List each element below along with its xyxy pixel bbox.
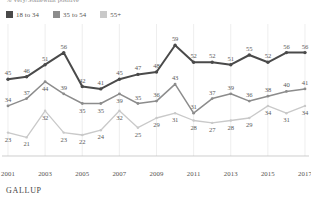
- data-label: 37: [209, 89, 216, 96]
- data-point: [192, 61, 195, 64]
- data-point: [99, 87, 102, 90]
- data-label: 41: [302, 79, 308, 86]
- data-label: 23: [60, 136, 67, 143]
- legend-swatch-55-plus: [100, 11, 107, 18]
- plot-area: 4546515642414547485952525155525656343744…: [0, 24, 311, 172]
- data-label: 38: [265, 86, 272, 93]
- data-label: 31: [172, 116, 178, 123]
- legend-swatch-18-to-34: [6, 11, 13, 18]
- data-point: [285, 112, 287, 114]
- data-label: 34: [265, 109, 272, 116]
- x-axis-tick-2003: 2003: [38, 170, 52, 177]
- data-label: 56: [283, 43, 290, 50]
- data-label: 45: [5, 69, 12, 76]
- data-label: 43: [172, 74, 179, 81]
- data-point: [285, 51, 288, 54]
- x-axis-tick-2005: 2005: [75, 170, 89, 177]
- data-label: 35: [79, 107, 86, 114]
- plot-svg: 4546515642414547485952525155525656343744…: [0, 24, 311, 172]
- x-axis-tick-2009: 2009: [150, 170, 164, 177]
- data-point: [248, 53, 251, 56]
- data-point: [136, 73, 139, 76]
- data-label: 56: [302, 43, 309, 50]
- data-point: [25, 97, 28, 100]
- data-point: [192, 119, 194, 121]
- x-axis-tick-2007: 2007: [112, 170, 126, 177]
- data-point: [155, 100, 158, 103]
- data-point: [43, 63, 46, 66]
- data-label: 39: [60, 84, 67, 91]
- gallup-wordmark: GALLUP: [6, 186, 42, 195]
- data-label: 41: [98, 79, 104, 86]
- data-point: [7, 131, 9, 133]
- data-point: [304, 105, 306, 107]
- data-label: 22: [79, 138, 85, 145]
- data-label: 36: [246, 91, 253, 98]
- data-label: 52: [265, 52, 271, 59]
- data-point: [99, 102, 102, 105]
- data-point: [7, 105, 10, 108]
- data-label: 35: [98, 107, 105, 114]
- legend-label-18-to-34: 18 to 34: [16, 11, 39, 18]
- data-point: [285, 90, 288, 93]
- data-point: [155, 117, 157, 119]
- x-axis-labels: 200120032005200720092011201320152017: [0, 170, 311, 182]
- data-point: [44, 110, 46, 112]
- data-label: 29: [246, 121, 253, 128]
- data-point: [62, 51, 65, 54]
- data-label: 44: [42, 85, 49, 92]
- x-axis-tick-2011: 2011: [187, 170, 201, 177]
- x-axis-tick-2013: 2013: [224, 170, 238, 177]
- data-point: [248, 117, 250, 119]
- chart-subtitle: % Very/Somewhat positive: [6, 0, 306, 5]
- data-point: [229, 92, 232, 95]
- data-label: 29: [153, 121, 160, 128]
- data-label: 40: [283, 81, 290, 88]
- data-label: 32: [42, 114, 48, 121]
- data-label: 59: [172, 35, 179, 42]
- data-label: 51: [228, 55, 234, 62]
- data-label: 52: [190, 52, 196, 59]
- data-label: 32: [116, 114, 122, 121]
- data-point: [118, 92, 121, 95]
- data-label: 28: [190, 124, 197, 131]
- data-point: [173, 44, 176, 47]
- data-point: [25, 75, 28, 78]
- data-point: [303, 51, 306, 54]
- data-label: 35: [135, 94, 142, 101]
- data-point: [230, 119, 232, 121]
- data-point: [174, 83, 177, 86]
- data-label: 46: [23, 67, 30, 74]
- legend-swatch-35-to-54: [53, 11, 60, 18]
- data-point: [248, 100, 251, 103]
- data-point: [211, 97, 214, 100]
- data-label: 39: [228, 84, 235, 91]
- legend-item-35-to-54[interactable]: 35 to 54: [53, 11, 86, 18]
- legend-item-18-to-34[interactable]: 18 to 34: [6, 11, 39, 18]
- data-label: 25: [135, 131, 142, 138]
- data-point: [267, 105, 269, 107]
- data-point: [137, 127, 139, 129]
- data-point: [155, 70, 158, 73]
- data-label: 28: [228, 124, 235, 131]
- data-point: [229, 63, 232, 66]
- x-axis-tick-2015: 2015: [261, 170, 275, 177]
- x-axis-tick-2001: 2001: [1, 170, 15, 177]
- legend-item-55-plus[interactable]: 55+: [100, 11, 121, 18]
- data-point: [174, 112, 176, 114]
- x-axis-tick-2017: 2017: [298, 170, 311, 177]
- data-label: 48: [153, 62, 160, 69]
- data-label: 34: [5, 96, 12, 103]
- data-point: [44, 80, 47, 83]
- data-point: [266, 61, 269, 64]
- data-label: 36: [153, 91, 160, 98]
- data-point: [118, 110, 120, 112]
- data-label: 23: [5, 136, 12, 143]
- data-label: 56: [60, 43, 67, 50]
- legend-label-35-to-54: 35 to 54: [63, 11, 86, 18]
- data-point: [100, 129, 102, 131]
- data-label: 52: [209, 52, 215, 59]
- data-label: 34: [302, 109, 309, 116]
- data-point: [81, 102, 84, 105]
- data-point: [6, 78, 9, 81]
